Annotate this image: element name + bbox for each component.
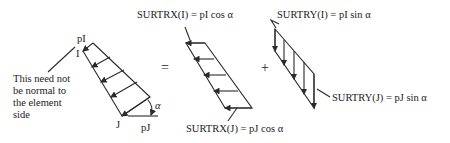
side-note: This need not be normal to the element s… [13,73,70,121]
diagram-canvas [0,0,450,143]
surtrx-i-label: SURTRX(I) = pI cos α [137,9,233,21]
note-line: side [13,109,70,121]
middle-load-diagram [185,27,252,121]
label-pI: pI [77,33,86,45]
top-leader-line [271,20,279,28]
note-line: the element [13,97,70,109]
side-leader-line [317,89,330,97]
load-envelope [93,43,150,116]
top-leader-line [185,27,190,40]
surtrx-j-label: SURTRX(J) = pJ cos α [186,123,283,135]
label-pJ: pJ [141,122,150,134]
surtry-j-label: SURTRY(J) = pJ sin α [332,92,427,104]
surtry-i-label: SURTRY(I) = pI sin α [277,9,371,21]
note-leader-line [48,47,75,72]
note-line: This need not [13,73,70,85]
angle-arc [148,100,152,115]
note-line: be normal to [13,85,70,97]
right-load-diagram [271,20,330,108]
node-I-label: I [76,48,80,60]
angle-alpha-label: α [155,100,161,112]
equals-sign: = [161,60,169,76]
plus-sign: + [261,60,269,76]
node-J-label: J [116,119,120,131]
bottom-leader-line [228,108,237,121]
